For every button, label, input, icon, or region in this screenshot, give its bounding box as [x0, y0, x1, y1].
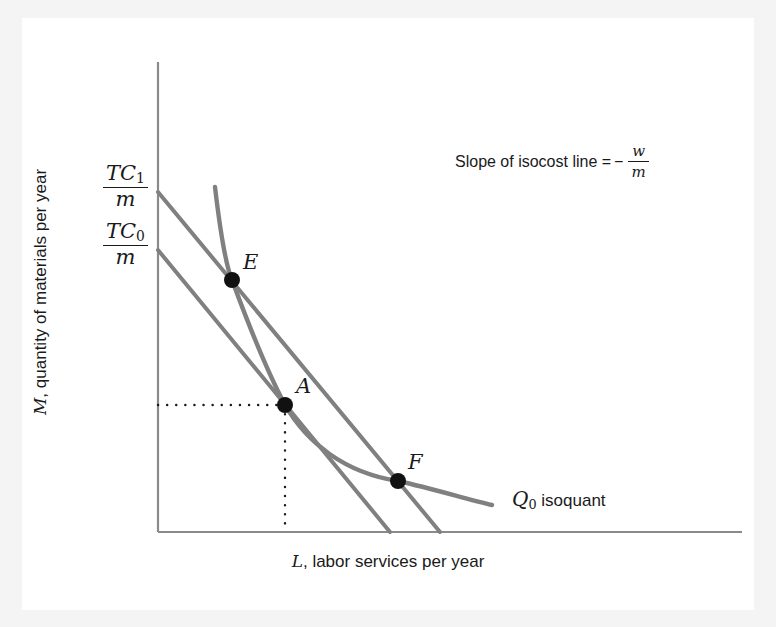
data-point-a	[277, 397, 293, 413]
slope-note-text: Slope of isocost line =	[455, 153, 611, 171]
y-axis-symbol: M	[30, 398, 50, 415]
slope-note-minus: −	[614, 153, 623, 171]
x-axis-symbol: L	[292, 551, 303, 571]
y-intercept-label-tc0: TC0 m	[103, 221, 148, 268]
point-label-e: E	[243, 252, 258, 273]
slope-note-fraction: w m	[628, 142, 648, 181]
isoquant-curve-label: Q0 isoquant	[512, 487, 606, 512]
isoquant-curve-q0	[215, 187, 492, 505]
data-point-e	[224, 272, 240, 288]
point-label-f: F	[408, 452, 423, 473]
y-axis-title: M, quantity of materials per year	[30, 169, 51, 415]
y-intercept-label-tc1: TC1 m	[103, 163, 148, 210]
figure-container: TC1 m TC0 m E A F Slope of isocost line …	[0, 0, 776, 627]
isocost-line-tc0	[158, 250, 390, 532]
x-axis-title-text: , labor services per year	[303, 552, 484, 571]
y-axis-title-text: , quantity of materials per year	[31, 169, 50, 398]
isoquant-label-text: isoquant	[541, 491, 605, 510]
data-point-f	[390, 473, 406, 489]
chart-canvas	[0, 0, 776, 627]
slope-of-isocost-annotation: Slope of isocost line = − w m	[455, 142, 649, 181]
point-label-a: A	[296, 376, 311, 397]
isoquant-symbol: Q0	[512, 487, 537, 511]
x-axis-title: L, labor services per year	[0, 551, 776, 572]
